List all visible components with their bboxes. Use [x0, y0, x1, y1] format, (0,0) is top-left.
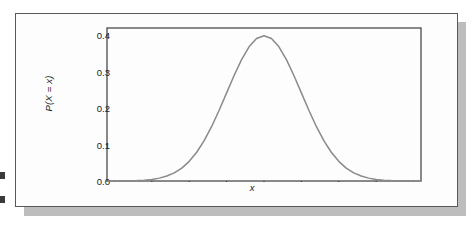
y-axis-tick-label: 0.2	[76, 103, 110, 114]
page-margin-artifacts	[0, 0, 14, 227]
page-edge-mark-icon	[0, 172, 5, 179]
page-edge-mark-icon	[0, 196, 5, 203]
y-axis-tick-labels: 0.00.10.20.30.4	[76, 14, 110, 208]
y-axis-tick-label: 0.4	[76, 30, 110, 41]
y-axis-tick-label: 0.3	[76, 66, 110, 77]
plot-frame	[107, 28, 421, 181]
figure-card: P(X = x) 0.00.10.20.30.4 x	[15, 13, 458, 207]
y-axis-tick-label: 0.0	[76, 176, 110, 187]
distribution-curve	[107, 36, 421, 181]
y-axis-title: P(X = x)	[43, 44, 54, 144]
y-axis-tick-label: 0.1	[76, 139, 110, 150]
plot-container: P(X = x) 0.00.10.20.30.4 x	[16, 14, 459, 208]
distribution-plot	[106, 27, 422, 182]
x-axis-title: x	[107, 182, 397, 193]
